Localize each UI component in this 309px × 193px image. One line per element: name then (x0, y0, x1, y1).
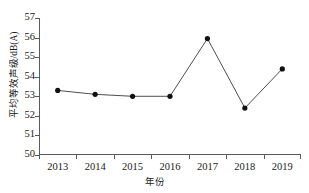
y-tick-label: 52 (25, 109, 36, 120)
data-point-marker (130, 94, 135, 99)
data-point-marker (55, 88, 60, 93)
y-tick-label: 54 (25, 70, 36, 81)
x-tick-mark (114, 155, 115, 159)
x-tick-mark (300, 155, 301, 159)
line-chart: 平均等效声级/dB(A) 5051525354555657 2013201420… (0, 0, 309, 193)
y-tick-label: 53 (25, 89, 36, 100)
x-tick-mark (189, 155, 190, 159)
x-tick-label: 2017 (197, 161, 218, 172)
data-point-marker (93, 92, 98, 97)
y-tick-label: 51 (25, 128, 36, 139)
data-point-marker (205, 36, 210, 41)
x-tick-label: 2015 (122, 161, 143, 172)
x-tick-label: 2019 (272, 161, 293, 172)
y-tick-label: 50 (25, 148, 36, 159)
y-tick-label: 55 (25, 50, 36, 61)
x-tick-mark (264, 155, 265, 159)
y-axis-title: 平均等效声级/dB(A) (6, 5, 20, 145)
data-point-marker (167, 94, 172, 99)
y-tick-label: 57 (25, 11, 36, 22)
x-axis-title: 年份 (0, 174, 309, 188)
x-tick-mark (39, 155, 40, 159)
x-tick-label: 2018 (234, 161, 255, 172)
x-tick-mark (226, 155, 227, 159)
x-tick-mark (151, 155, 152, 159)
x-tick-mark (76, 155, 77, 159)
data-series-line (39, 18, 301, 155)
x-tick-label: 2014 (85, 161, 106, 172)
x-tick-label: 2016 (160, 161, 181, 172)
data-point-marker (242, 105, 247, 110)
data-point-marker (280, 66, 285, 71)
x-tick-label: 2013 (47, 161, 68, 172)
plot-area: 5051525354555657 20132014201520162017201… (39, 18, 301, 155)
y-tick-label: 56 (25, 31, 36, 42)
